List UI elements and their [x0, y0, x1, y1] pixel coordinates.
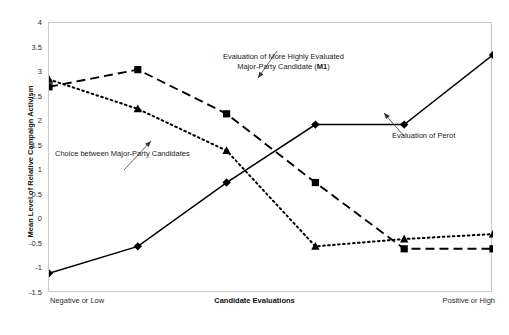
y-axis-ticks: 4 3.5 3 2.5 2 1.5 1 0.5 0 -0.5 -1 -1.5	[0, 0, 46, 335]
annotation-m1: Evaluation of More Highly Evaluated Majo…	[223, 52, 344, 72]
annotation-m1-bold: M1	[317, 62, 327, 71]
series-layer	[49, 51, 493, 278]
y-axis-title: Mean Level of Relative Campaign Activism	[26, 62, 35, 262]
data-point-marker	[222, 146, 230, 154]
y-tick-label: 3	[38, 67, 42, 76]
annotation-m1-line2-post: )	[327, 62, 330, 71]
series-3	[49, 51, 493, 278]
data-point-marker	[312, 179, 319, 186]
data-point-marker	[401, 245, 408, 252]
y-tick-label: 2	[38, 116, 42, 125]
annotation-m1-line1: Evaluation of More Highly Evaluated	[223, 52, 344, 62]
x-axis-right-label: Positive or High	[442, 296, 495, 305]
y-tick-label: -1	[35, 263, 42, 272]
data-point-marker	[49, 83, 53, 90]
arrow-m1-head	[258, 72, 264, 78]
annotation-perot: Evaluation of Perot	[392, 131, 455, 141]
chart-figure: 4 3.5 3 2.5 2 1.5 1 0.5 0 -0.5 -1 -1.5 M…	[0, 0, 509, 335]
data-point-marker	[311, 120, 319, 128]
series-line	[49, 79, 493, 246]
y-tick-label: -1.5	[29, 287, 42, 296]
y-tick-label: 0	[38, 214, 42, 223]
series-line	[49, 55, 493, 273]
x-axis-title: Candidate Evaluations	[0, 296, 509, 305]
data-point-marker	[134, 66, 141, 73]
data-point-marker	[223, 110, 230, 117]
annotation-m1-line2: Major-Party Candidate (M1)	[223, 62, 344, 72]
data-point-marker	[489, 245, 493, 252]
y-tick-label: 3.5	[32, 42, 42, 51]
y-tick-label: 1	[38, 165, 42, 174]
series-line	[49, 70, 493, 249]
data-point-marker	[49, 269, 53, 277]
annotation-choice: Choice between Major-Party Candidates	[55, 149, 190, 159]
data-point-marker	[49, 75, 53, 83]
series-2	[49, 75, 493, 250]
y-tick-label: 4	[38, 18, 42, 27]
annotation-m1-line2-pre: Major-Party Candidate (	[237, 62, 317, 71]
series-1	[49, 66, 493, 252]
